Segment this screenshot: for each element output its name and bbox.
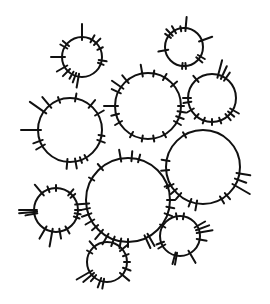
tick-mark: [153, 136, 154, 142]
tick-mark: [98, 63, 104, 65]
tick-mark: [182, 63, 183, 69]
circle-outline: [115, 73, 181, 139]
tick-mark: [183, 132, 186, 137]
tick-mark: [123, 268, 131, 271]
tick-mark: [180, 26, 181, 31]
tick-mark: [166, 207, 174, 208]
tick-mark: [165, 213, 173, 216]
spiky-circle-c3: [104, 65, 185, 142]
circle-outline: [38, 98, 102, 162]
tick-mark: [75, 213, 81, 214]
hand-drawn-circles-drawing: [0, 0, 270, 304]
tick-mark: [30, 102, 46, 113]
circle-outline: [87, 242, 127, 282]
circle-outline: [86, 158, 170, 242]
spiky-circle-c7: [161, 130, 250, 210]
tick-mark: [158, 50, 168, 52]
tick-mark: [197, 239, 207, 241]
circle-outline: [160, 216, 200, 256]
tick-mark: [58, 97, 60, 103]
spiky-circle-c5: [21, 94, 105, 169]
tick-mark: [35, 185, 44, 196]
tick-mark: [219, 118, 221, 124]
tick-mark: [59, 229, 61, 239]
tick-mark: [189, 199, 192, 207]
tick-mark: [176, 116, 184, 119]
tick-mark: [99, 60, 107, 61]
tick-mark: [142, 136, 143, 142]
tick-mark: [232, 184, 249, 194]
circle-outline: [188, 74, 236, 122]
tick-mark: [161, 170, 169, 171]
tick-mark: [75, 94, 76, 102]
circle-outline: [34, 188, 78, 232]
spiky-circle-c2: [158, 17, 212, 69]
spiky-circle-c4: [183, 60, 239, 125]
tick-mark: [111, 114, 119, 116]
tick-mark: [183, 102, 191, 103]
tick-mark: [153, 71, 154, 77]
tick-mark: [195, 200, 197, 210]
tick-mark: [97, 140, 105, 143]
spiky-circle-c10: [77, 241, 131, 288]
tick-mark: [203, 118, 205, 124]
tick-mark: [185, 63, 186, 69]
tick-mark: [178, 111, 186, 112]
tick-mark: [185, 17, 186, 31]
tick-mark: [42, 97, 51, 108]
tick-mark: [97, 47, 102, 50]
tick-mark: [74, 216, 80, 218]
tick-mark: [89, 178, 94, 181]
tick-mark: [80, 157, 82, 163]
circle-outline: [166, 130, 240, 204]
tick-mark: [67, 159, 68, 169]
tick-mark: [176, 213, 177, 219]
tick-mark: [99, 135, 105, 136]
tick-mark: [102, 279, 104, 289]
tick-mark: [123, 254, 129, 256]
spiky-circle-c8: [19, 185, 81, 247]
spiky-circle-c1: [51, 24, 107, 88]
tick-mark: [131, 151, 132, 161]
tick-mark: [77, 271, 93, 280]
tick-mark: [138, 155, 140, 163]
tick-mark: [47, 187, 49, 193]
tick-mark: [157, 242, 165, 245]
tick-mark: [75, 159, 77, 169]
tick-mark: [162, 160, 170, 161]
tick-mark: [183, 213, 184, 219]
